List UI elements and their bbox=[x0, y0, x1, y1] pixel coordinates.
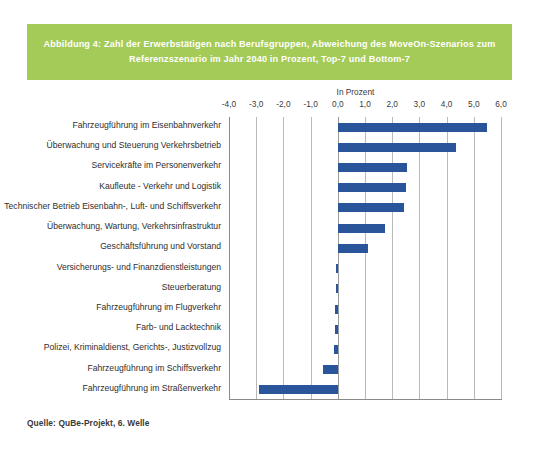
figure-container: Abbildung 4: Zahl der Erwerbstätigen nac… bbox=[0, 0, 538, 450]
x-tick-label: 5,0 bbox=[468, 99, 480, 109]
category-label: Fahrzeugführung im Eisenbahnverkehr bbox=[72, 120, 221, 130]
chart-row: Geschäftsführung und Vorstand bbox=[27, 238, 512, 258]
chart-row: Überwachung und Steuerung Verkehrsbetrie… bbox=[27, 137, 512, 157]
category-label: Farb- und Lacktechnik bbox=[136, 322, 221, 332]
x-tick-label: 3,0 bbox=[414, 99, 426, 109]
chart-panel: In Prozent -4,0-3,0-2,0-1,00,01,02,03,04… bbox=[27, 85, 512, 415]
category-label: Servicekräfte im Personenverkehr bbox=[92, 160, 221, 170]
chart-row: Polizei, Kriminaldienst, Gerichts-, Just… bbox=[27, 339, 512, 359]
chart-row: Fahrzeugführung im Schiffsverkehr bbox=[27, 360, 512, 380]
chart-row: Servicekräfte im Personenverkehr bbox=[27, 157, 512, 177]
chart-row: Überwachung, Wartung, Verkehrsinfrastruk… bbox=[27, 218, 512, 238]
chart-bars-group: Fahrzeugführung im EisenbahnverkehrÜberw… bbox=[27, 117, 512, 400]
x-axis-tick-labels: -4,0-3,0-2,0-1,00,01,02,03,04,05,06,0 bbox=[27, 99, 512, 111]
chart-row: Fahrzeugführung im Flugverkehr bbox=[27, 299, 512, 319]
bar bbox=[323, 365, 338, 374]
source-note: Quelle: QuBe-Projekt, 6. Welle bbox=[27, 418, 149, 428]
chart-row: Fahrzeugführung im Eisenbahnverkehr bbox=[27, 117, 512, 137]
chart-row: Fahrzeugführung im Straßenverkehr bbox=[27, 380, 512, 400]
bar bbox=[338, 163, 407, 172]
chart-row: Versicherungs- und Finanzdienstleistunge… bbox=[27, 259, 512, 279]
x-tick-label: 4,0 bbox=[441, 99, 453, 109]
x-tick-label: 6,0 bbox=[495, 99, 507, 109]
chart-row: Technischer Betrieb Eisenbahn-, Luft- un… bbox=[27, 198, 512, 218]
category-label: Kaufleute - Verkehr und Logistik bbox=[99, 181, 221, 191]
category-label: Überwachung und Steuerung Verkehrsbetrie… bbox=[47, 140, 221, 150]
bar bbox=[338, 183, 406, 192]
category-label: Versicherungs- und Finanzdienstleistunge… bbox=[57, 262, 221, 272]
bar bbox=[338, 203, 405, 212]
bar bbox=[338, 244, 368, 253]
category-label: Fahrzeugführung im Flugverkehr bbox=[96, 302, 221, 312]
category-label: Polizei, Kriminaldienst, Gerichts-, Just… bbox=[44, 342, 221, 352]
bar bbox=[338, 224, 386, 233]
category-label: Fahrzeugführung im Straßenverkehr bbox=[82, 383, 221, 393]
chart-row: Kaufleute - Verkehr und Logistik bbox=[27, 178, 512, 198]
category-label: Geschäftsführung und Vorstand bbox=[100, 241, 221, 251]
x-tick-label: 0,0 bbox=[332, 99, 344, 109]
category-label: Fahrzeugführung im Schiffsverkehr bbox=[87, 363, 221, 373]
figure-title-line-2: Referenzszenario im Jahr 2040 in Prozent… bbox=[129, 52, 410, 67]
category-label: Technischer Betrieb Eisenbahn-, Luft- un… bbox=[4, 201, 221, 211]
x-tick-label: -3,0 bbox=[249, 99, 263, 109]
axis-unit-text: In Prozent bbox=[337, 87, 375, 97]
bar bbox=[336, 284, 338, 293]
bar bbox=[336, 264, 338, 273]
bar bbox=[338, 143, 456, 152]
bar bbox=[338, 123, 488, 132]
category-label: Überwachung, Wartung, Verkehrsinfrastruk… bbox=[47, 221, 221, 231]
category-label: Steuerberatung bbox=[162, 282, 221, 292]
bar bbox=[335, 325, 338, 334]
x-tick-label: -4,0 bbox=[222, 99, 236, 109]
figure-title-line-1: Abbildung 4: Zahl der Erwerbstätigen nac… bbox=[44, 37, 496, 52]
bar bbox=[335, 305, 338, 314]
x-tick-label: -1,0 bbox=[303, 99, 317, 109]
chart-row: Farb- und Lacktechnik bbox=[27, 319, 512, 339]
x-tick-label: 1,0 bbox=[359, 99, 371, 109]
bar bbox=[334, 345, 338, 354]
axis-unit-label: In Prozent bbox=[27, 87, 512, 97]
figure-title-banner: Abbildung 4: Zahl der Erwerbstätigen nac… bbox=[27, 24, 512, 80]
x-tick-label: -2,0 bbox=[276, 99, 290, 109]
chart-row: Steuerberatung bbox=[27, 279, 512, 299]
x-tick-label: 2,0 bbox=[386, 99, 398, 109]
bar bbox=[259, 385, 338, 394]
